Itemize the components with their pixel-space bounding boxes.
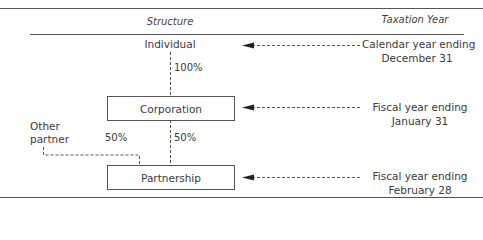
individual-taxation-line2: December 31 [362,51,472,65]
corporation-label: Corporation [140,103,202,115]
other-partner-ownership-pct: 50% [105,132,127,143]
corporation-arrowhead-icon [242,105,254,111]
partnership-taxation-year: Fiscal year ending February 28 [370,169,470,197]
individual-taxation-line1: Calendar year ending [362,37,472,51]
individual-ownership-pct: 100% [174,62,203,73]
corporation-box: Corporation [107,96,235,121]
corporation-taxation-year: Fiscal year ending January 31 [370,100,470,128]
corporation-taxation-line2: January 31 [370,114,470,128]
corporation-ownership-pct: 50% [174,132,196,143]
individual-arrowhead-icon [242,43,254,49]
partnership-label: Partnership [141,172,201,184]
individual-label: Individual [140,38,200,50]
partnership-taxation-line1: Fiscal year ending [370,169,470,183]
partnership-arrowhead-icon [242,175,254,181]
partnership-taxation-line2: February 28 [370,183,470,197]
other-partner-connector [44,147,140,165]
individual-taxation-year: Calendar year ending December 31 [362,37,472,65]
other-partner-label: Other partner [30,120,69,146]
partnership-box: Partnership [107,165,235,190]
corporation-taxation-line1: Fiscal year ending [370,100,470,114]
